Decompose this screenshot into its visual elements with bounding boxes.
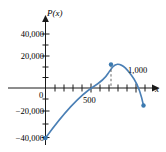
marker-vertex <box>109 62 113 66</box>
y-axis-title: P(x) <box>47 9 63 18</box>
origin-label: 0 <box>39 91 43 100</box>
y-tick-label-40000: 40,000 <box>21 30 44 39</box>
marker-right-endpoint <box>141 103 145 107</box>
y-tick-label-negative-20000: −20,000 <box>16 107 44 116</box>
x-axis-title: x <box>155 85 159 94</box>
y-tick-label-20000: 20,000 <box>21 52 44 61</box>
x-tick-label-500: 500 <box>83 96 96 105</box>
y-tick-label-negative-40000: −40,000 <box>16 134 44 143</box>
chart-plot-area <box>0 0 166 152</box>
x-tick-label-1000: 1,000 <box>128 66 147 75</box>
y-axis-title-argument: (x) <box>53 8 63 18</box>
chart-figure: 40,000 20,000 0 −20,000 −40,000 500 1,00… <box>0 0 166 152</box>
